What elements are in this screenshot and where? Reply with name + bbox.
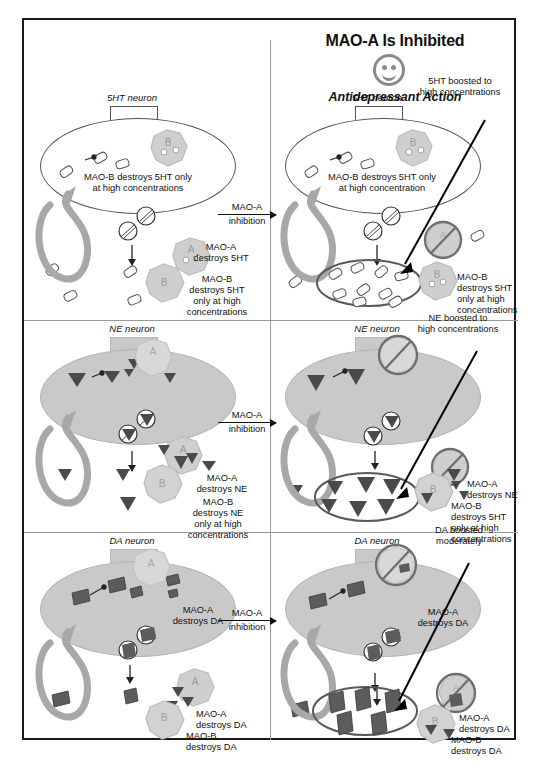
svg-text:B: B: [161, 712, 168, 723]
transition-label-top: MAO-A: [216, 608, 278, 619]
enzyme-b-inside: B: [396, 130, 432, 166]
panel-ne-after: NE neuron: [271, 321, 518, 532]
svg-text:A: A: [148, 558, 155, 569]
enzyme-b-outside: B: [415, 473, 453, 511]
label-mao-b-destroys-5ht: MAO-B destroys 5HT only at high concentr…: [457, 272, 519, 316]
mao-a-inhibited-icon-outside: A: [437, 674, 475, 712]
boosted-5ht-pool: [317, 260, 421, 308]
svg-text:B: B: [410, 137, 417, 148]
svg-text:B: B: [434, 269, 441, 280]
svg-text:B: B: [161, 277, 168, 288]
figure-page: MAO-A Is Inhibited Antidepressant Action…: [0, 0, 536, 771]
inside-text-5ht-before: MAO-B destroys 5HT only at high concentr…: [72, 172, 204, 194]
label-mao-a-destroys-da: MAO-A destroys DA: [196, 709, 266, 731]
inside-text-da-after: MAO-A destroys DA: [397, 607, 489, 629]
panel-da-after-graphics: A: [271, 533, 518, 740]
mao-a-inhibited-icon-inside: [376, 545, 416, 585]
label-mao-a-destroys-da: MAO-A destroys DA: [459, 713, 517, 735]
enzyme-b-outside: B: [146, 701, 184, 739]
svg-text:A: A: [192, 676, 199, 687]
callout-da-boosted: DA boosted moderately: [403, 525, 515, 547]
mao-a-inhibited-icon: A: [425, 222, 462, 258]
arrow-shaft: [218, 422, 276, 423]
figure-frame: MAO-A Is Inhibited Antidepressant Action…: [22, 18, 516, 740]
label-mao-b-destroys-da: MAO-B destroys DA: [451, 735, 517, 757]
panel-da-after: DA neuron: [271, 533, 518, 740]
panel-5ht-after: 5HT neuron: [271, 20, 518, 320]
svg-text:A: A: [180, 444, 187, 455]
svg-text:B: B: [159, 478, 166, 489]
callout-ne-boosted: NE boosted to high concentrations: [399, 313, 517, 335]
transition-arrow-5ht: MAO-A inhibition: [216, 202, 278, 227]
label-mao-a-destroys-ne: MAO-A destroys NE: [180, 473, 264, 495]
svg-text:B: B: [165, 137, 172, 148]
svg-text:A: A: [150, 346, 157, 357]
transition-arrow-da: MAO-A inhibition: [216, 608, 278, 633]
label-mao-b-destroys-da: MAO-B destroys DA: [186, 731, 266, 753]
transition-label-bottom: inhibition: [216, 424, 278, 435]
enzyme-b-inside: B: [151, 130, 187, 166]
arrow-shaft: [218, 620, 276, 621]
enzyme-b-outside: B: [419, 262, 457, 300]
transition-label-bottom: inhibition: [216, 622, 278, 633]
inside-text-5ht-after: MAO-B destroys 5HT only at high concentr…: [315, 172, 449, 194]
label-mao-a-destroys-ne: MAO-A destroys NE: [467, 479, 519, 501]
enzyme-b-outside: B: [417, 705, 455, 743]
enzyme-a-inside: A: [135, 339, 172, 376]
arrow-shaft: [218, 214, 276, 215]
mao-a-inhibited-icon-inside: [379, 336, 417, 374]
enzyme-a-inside: A: [133, 549, 170, 586]
panel-5ht-before: 5HT neuron: [24, 20, 270, 320]
transition-label-top: MAO-A: [216, 202, 278, 213]
transition-label-bottom: inhibition: [216, 216, 278, 227]
transition-arrow-ne: MAO-A inhibition: [216, 410, 278, 435]
transition-label-top: MAO-A: [216, 410, 278, 421]
label-mao-b-destroys-5ht: MAO-B destroys 5HT only at high concentr…: [172, 274, 262, 318]
label-mao-a-destroys-5ht: MAO-A destroys 5HT: [180, 242, 262, 264]
panel-da-before: DA neuron: [24, 533, 270, 740]
callout-5ht-boosted: 5HT boosted to high concentrations: [403, 76, 517, 98]
